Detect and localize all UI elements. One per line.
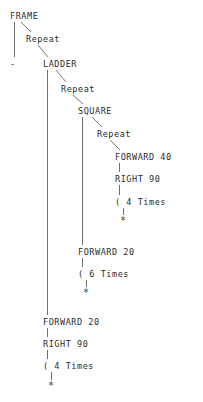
tree-edge-layer (0, 0, 203, 402)
tree-edge (110, 140, 120, 150)
tree-node-right90a: RIGHT 90 (115, 175, 160, 184)
tree-edge (92, 117, 102, 127)
tree-node-star2: * (83, 288, 90, 297)
parse-tree-diagram: FRAMERepeat-LADDERRepeatSQUARERepeatFORW… (0, 0, 203, 402)
tree-node-frame: FRAME (10, 12, 38, 21)
tree-node-forward20a: FORWARD 20 (78, 248, 135, 257)
tree-node-times6: ( 6 Times (78, 270, 129, 279)
tree-edge (73, 95, 83, 104)
tree-node-repeat2: Repeat (61, 85, 95, 94)
tree-node-ladder: LADDER (43, 60, 77, 69)
tree-edge (21, 22, 31, 32)
tree-node-square: SQUARE (78, 107, 112, 116)
tree-edge (56, 70, 66, 82)
tree-node-repeat1: Repeat (26, 35, 60, 44)
tree-node-times4b: ( 4 Times (43, 362, 94, 371)
tree-node-forward20b: FORWARD 20 (43, 318, 100, 327)
tree-node-star1: * (120, 216, 127, 225)
tree-node-repeat3: Repeat (97, 130, 131, 139)
tree-node-times4a: ( 4 Times (115, 198, 166, 207)
tree-edge (38, 45, 48, 57)
tree-node-star3: * (48, 381, 55, 390)
tree-node-dash: - (10, 60, 16, 69)
tree-node-forward40: FORWARD 40 (115, 153, 172, 162)
tree-node-right90b: RIGHT 90 (43, 340, 88, 349)
